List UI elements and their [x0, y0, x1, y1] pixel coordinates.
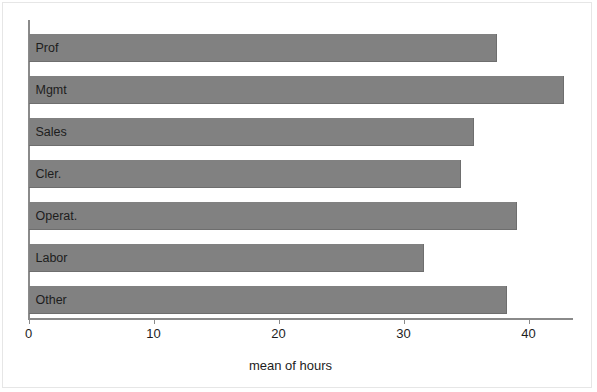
- bar-category-label: Operat.: [36, 202, 78, 230]
- bar-chart: ProfMgmtSalesCler.Operat.LaborOther 0102…: [0, 0, 597, 392]
- bar-row: Prof: [29, 34, 569, 62]
- x-axis-tick: [529, 318, 531, 324]
- bar-row: Mgmt: [29, 76, 569, 104]
- bar[interactable]: [29, 76, 564, 104]
- bar-row: Operat.: [29, 202, 569, 230]
- bar-row: Cler.: [29, 160, 569, 188]
- x-axis-title: mean of hours: [0, 358, 597, 373]
- x-axis-title-text: mean of hours: [249, 358, 332, 373]
- x-axis-tick-label: 20: [271, 326, 285, 341]
- bar[interactable]: [29, 286, 508, 314]
- x-axis-line: [28, 318, 573, 320]
- x-axis-tick: [29, 318, 31, 324]
- bar[interactable]: [29, 202, 518, 230]
- plot-area: ProfMgmtSalesCler.Operat.LaborOther: [29, 20, 569, 318]
- bar-category-label: Other: [36, 286, 67, 314]
- bar[interactable]: [29, 244, 424, 272]
- bar-category-label: Sales: [36, 118, 67, 146]
- bar-category-label: Cler.: [36, 160, 62, 188]
- bar-category-label: Mgmt: [36, 76, 67, 104]
- x-axis-tick: [279, 318, 281, 324]
- bar-row: Labor: [29, 244, 569, 272]
- bar[interactable]: [29, 160, 462, 188]
- x-axis-tick: [154, 318, 156, 324]
- x-axis-tick-label: 40: [521, 326, 535, 341]
- bar-row: Other: [29, 286, 569, 314]
- x-axis-tick-label: 0: [25, 326, 32, 341]
- bar-row: Sales: [29, 118, 569, 146]
- bar-category-label: Prof: [36, 34, 59, 62]
- x-axis-tick-label: 10: [146, 326, 160, 341]
- x-axis-tick: [404, 318, 406, 324]
- bar[interactable]: [29, 118, 474, 146]
- x-axis-tick-label: 30: [396, 326, 410, 341]
- bar[interactable]: [29, 34, 498, 62]
- bar-category-label: Labor: [36, 244, 68, 272]
